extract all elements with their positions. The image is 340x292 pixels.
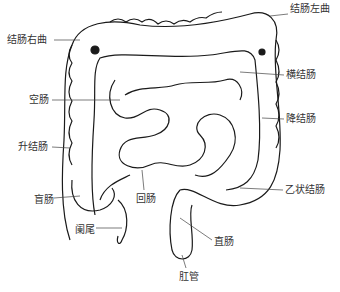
- label-ileum: 回肠: [136, 193, 156, 205]
- label-right-colic-flexure: 结肠右曲: [7, 34, 47, 46]
- intestine-illustration: [0, 0, 340, 292]
- label-descending-colon: 降结肠: [286, 113, 316, 125]
- label-sigmoid-colon: 乙状结肠: [285, 184, 325, 196]
- label-rectum: 直肠: [214, 236, 234, 248]
- label-appendix: 阑尾: [75, 224, 95, 236]
- small-intestine-loops: [110, 80, 235, 176]
- label-ascending-colon: 升结肠: [18, 141, 48, 153]
- large-intestine-diagram: 结肠左曲 结肠右曲 横结肠 空肠 降结肠 升结肠 盲肠 回肠 乙状结肠 阑尾 直…: [0, 0, 340, 292]
- label-cecum: 盲肠: [34, 194, 54, 206]
- label-jejunum: 空肠: [29, 94, 49, 106]
- appendix-outline: [117, 200, 126, 243]
- label-transverse-colon: 横结肠: [286, 69, 316, 81]
- label-left-colic-flexure: 结肠左曲: [290, 3, 330, 15]
- label-anal-canal: 肛管: [179, 271, 199, 283]
